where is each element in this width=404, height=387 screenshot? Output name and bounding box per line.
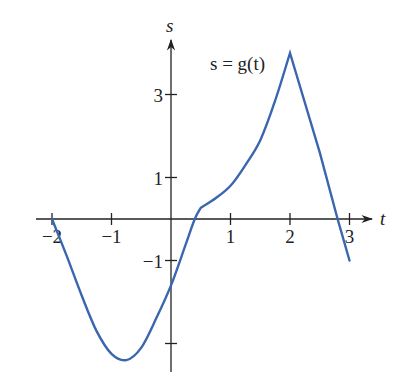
- x-tick-label: 1: [226, 226, 236, 247]
- x-tick-label: −1: [101, 226, 121, 247]
- x-tick-label: 3: [345, 226, 355, 247]
- plot-area: −2−1123 31−1 t s s = g(t): [0, 0, 404, 387]
- x-ticks: −2−1123: [42, 213, 354, 247]
- chart: −2−1123 31−1 t s s = g(t): [0, 0, 404, 387]
- x-tick-label: 2: [285, 226, 295, 247]
- curve-g-of-t: [52, 53, 350, 360]
- y-tick-label: −1: [143, 251, 163, 272]
- y-ticks: 31−1: [143, 85, 177, 344]
- y-tick-label: 3: [154, 85, 164, 106]
- y-axis-label: s: [166, 15, 173, 36]
- curve-label: s = g(t): [210, 53, 265, 75]
- y-tick-label: 1: [154, 168, 164, 189]
- x-axis-label: t: [380, 208, 386, 229]
